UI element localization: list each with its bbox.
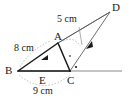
vertex-dot-c <box>69 70 71 72</box>
geometry-diagram: A B C D E 8 cm 9 cm 5 cm <box>0 0 133 105</box>
right-angle-dot-c <box>75 66 77 68</box>
angle-dot-a <box>69 55 71 57</box>
measurement-label-bc: 9 cm <box>33 86 53 96</box>
measurement-label-ad: 5 cm <box>57 14 77 24</box>
vertex-label-a: A <box>54 31 62 42</box>
vertex-label-c: C <box>67 75 74 86</box>
segment-ac <box>58 43 70 71</box>
guide-arc-ad <box>63 39 80 46</box>
measurement-label-ba: 8 cm <box>14 43 34 53</box>
arrowhead-ba <box>41 55 48 60</box>
vertex-label-d: D <box>112 2 120 13</box>
vertex-label-b: B <box>5 65 12 76</box>
direction-arrows <box>41 41 93 60</box>
